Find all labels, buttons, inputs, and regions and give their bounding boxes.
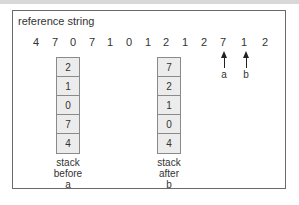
ref-value: 1 bbox=[104, 36, 116, 48]
stack-after-b-caption: stack after b bbox=[144, 157, 194, 190]
stack-cell: 2 bbox=[57, 58, 79, 77]
stack-cell: 1 bbox=[158, 96, 180, 115]
ref-value: 1 bbox=[179, 36, 191, 48]
stack-cell: 7 bbox=[57, 115, 79, 134]
stack-cell: 1 bbox=[57, 77, 79, 96]
marker-b: b bbox=[241, 69, 251, 80]
stack-cell: 7 bbox=[158, 58, 180, 77]
arrow-shaft-b bbox=[246, 56, 247, 68]
marker-a: a bbox=[219, 69, 229, 80]
caption-line: a bbox=[43, 179, 93, 190]
caption-line: after bbox=[144, 168, 194, 179]
ref-value: 0 bbox=[67, 36, 79, 48]
stack-cell: 0 bbox=[158, 115, 180, 134]
ref-value: 4 bbox=[30, 36, 42, 48]
stack-before-a-caption: stack before a bbox=[43, 157, 93, 190]
stack-cell: 4 bbox=[57, 134, 79, 153]
stack-after-b: 7 2 1 0 4 bbox=[157, 57, 181, 154]
ref-value: 0 bbox=[123, 36, 135, 48]
stack-cell: 2 bbox=[158, 77, 180, 96]
caption-line: before bbox=[43, 168, 93, 179]
stack-cell: 4 bbox=[158, 134, 180, 153]
ref-value: 7 bbox=[86, 36, 98, 48]
stack-before-a: 2 1 0 7 4 bbox=[56, 57, 80, 154]
ref-value: 1 bbox=[142, 36, 154, 48]
caption-line: b bbox=[144, 179, 194, 190]
ref-value: 7 bbox=[49, 36, 61, 48]
stack-cell: 0 bbox=[57, 96, 79, 115]
ref-value: 7 bbox=[217, 36, 229, 48]
diagram-title: reference string bbox=[18, 15, 94, 27]
top-edge bbox=[0, 0, 299, 4]
caption-line: stack bbox=[43, 157, 93, 168]
arrow-shaft-a bbox=[224, 56, 225, 68]
caption-line: stack bbox=[144, 157, 194, 168]
ref-value: 2 bbox=[160, 36, 172, 48]
ref-value: 1 bbox=[238, 36, 250, 48]
ref-value: 2 bbox=[259, 36, 271, 48]
ref-value: 2 bbox=[198, 36, 210, 48]
